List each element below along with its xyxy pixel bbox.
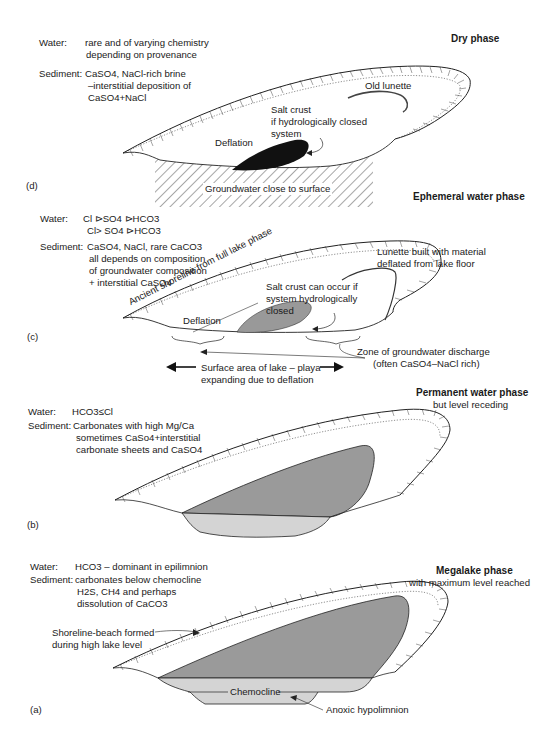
sediment-line-d-2: –interstitial deposition of xyxy=(88,80,191,92)
sediment-label-a: Sediment: xyxy=(30,574,73,586)
deflation-label-d: Deflation xyxy=(215,137,253,149)
water-line-c-1: Cl ⊳SO4 ⊳HCO3 xyxy=(83,213,159,225)
sediment-label-c: Sediment: xyxy=(40,241,83,253)
phase-title-b: Permanent water phase xyxy=(416,387,528,398)
sediment-line-d-3: CaSO4+NaCl xyxy=(88,92,146,104)
salt-crust-label-c-2: system hydrologically xyxy=(266,293,357,305)
sediment-line-a-1: carbonates below chemocline xyxy=(75,574,201,586)
chemocline-label: Chemocline xyxy=(230,686,281,698)
water-label-d: Water: xyxy=(39,37,67,49)
water-depth-b xyxy=(182,513,330,537)
phase-subtitle-b: but level receding xyxy=(433,399,508,410)
shoreline-beach-label-2: during high lake level xyxy=(52,639,142,651)
old-lunette-shape xyxy=(348,91,407,112)
shoreline-beach-label-1: Shoreline-beach formed xyxy=(52,627,154,639)
panel-id-b: (b) xyxy=(27,519,39,530)
sediment-line-a-2: H2S, CH4 and perhaps xyxy=(77,586,176,598)
old-lunette-label: Old lunette xyxy=(365,80,411,92)
epilimnion xyxy=(158,596,409,678)
salt-crust-label-c-1: Salt crust can occur if xyxy=(266,281,358,293)
water-line-d-1: rare and of varying chemistry xyxy=(85,37,209,49)
anoxic-hypolimnion-label: Anoxic hypolimnion xyxy=(326,704,409,716)
water-line-c-2: Cl> SO4 ⊳HCO3 xyxy=(87,225,161,237)
deflation-label-c: Deflation xyxy=(183,315,221,327)
salt-crust-label-c-3: closed xyxy=(266,305,294,317)
groundwater-zone-label-1: Zone of groundwater discharge xyxy=(357,346,490,358)
panel-id-d: (d) xyxy=(26,180,38,191)
sediment-line-b-1: Carbonates with high Mg/Ca xyxy=(73,420,194,432)
water-label-a: Water: xyxy=(30,561,58,573)
sediment-line-a-3: dissolution of CaCO3 xyxy=(77,598,168,610)
sediment-line-d-1: CaSO4, NaCl-rich brine xyxy=(85,68,186,80)
phase-title-d: Dry phase xyxy=(451,33,499,44)
sediment-line-c-1: CaSO4, NaCl, rare CaCO3 xyxy=(87,241,202,253)
sediment-line-c-2: all depends on composition xyxy=(89,253,205,265)
surface-area-label-1: Surface area of lake – playa xyxy=(201,362,320,374)
water-label-c: Water: xyxy=(40,213,68,225)
lunette-label-2: deflated from lake floor xyxy=(377,258,475,270)
salt-crust-label-d-2: if hydrologically closed xyxy=(271,116,367,128)
salt-crust-label-d-1: Salt crust xyxy=(271,104,311,116)
sediment-label-d: Sediment: xyxy=(39,68,82,80)
panel-id-a: (a) xyxy=(30,704,42,715)
sediment-line-b-3: carbonate sheets and CaSO4 xyxy=(76,444,202,456)
sediment-line-b-2: sometimes CaSo4+interstitial xyxy=(76,432,201,444)
water-line-b-1: HCO3≤Cl xyxy=(72,406,113,418)
surface-area-label-2: expanding due to deflation xyxy=(201,374,314,386)
groundwater-label: Groundwater close to surface xyxy=(203,183,332,195)
phase-subtitle-a: with maximum level reached xyxy=(409,577,530,588)
water-line-a-1: HCO3 – dominant in epilimnion xyxy=(75,561,208,573)
sediment-label-b: Sediment: xyxy=(28,420,71,432)
panel-id-c: (c) xyxy=(27,331,38,342)
water-line-d-2: depending on provenance xyxy=(86,49,197,61)
groundwater-zone-label-2: (often CaSO4–NaCl rich) xyxy=(373,358,480,370)
water-label-b: Water: xyxy=(28,406,56,418)
phase-title-c: Ephemeral water phase xyxy=(413,191,525,202)
salt-crust-label-d-3: system xyxy=(271,128,301,140)
phase-title-a: Megalake phase xyxy=(436,565,513,576)
lunette-label-1: Lunette built with material xyxy=(377,246,486,258)
